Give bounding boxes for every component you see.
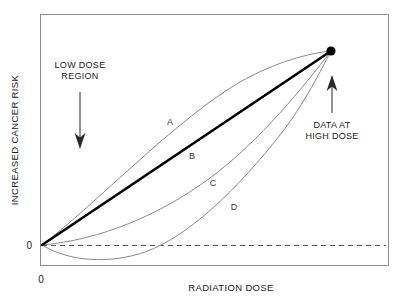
y-origin-tick-label: 0 xyxy=(26,240,32,251)
x-axis-label: RADIATION DOSE xyxy=(188,282,273,293)
curve-label-d: D xyxy=(231,202,238,212)
chart-background xyxy=(0,0,401,296)
low-dose-region-line2: REGION xyxy=(61,71,98,81)
chart-figure: A B C D LOW DOSE REGION DATA AT HIGH DOS… xyxy=(0,0,401,296)
data-point-marker xyxy=(326,46,335,55)
high-dose-label-line2: HIGH DOSE xyxy=(305,131,358,141)
curve-label-c: C xyxy=(210,178,217,188)
curve-label-b: B xyxy=(189,151,195,161)
low-dose-region-line1: LOW DOSE xyxy=(55,60,106,70)
curve-label-a: A xyxy=(167,117,173,127)
dose-response-chart: A B C D LOW DOSE REGION DATA AT HIGH DOS… xyxy=(0,0,401,296)
x-origin-tick-label: 0 xyxy=(38,274,44,285)
y-axis-label: INCREASED CANCER RISK xyxy=(9,75,20,206)
high-dose-label-line1: DATA AT xyxy=(313,120,350,130)
